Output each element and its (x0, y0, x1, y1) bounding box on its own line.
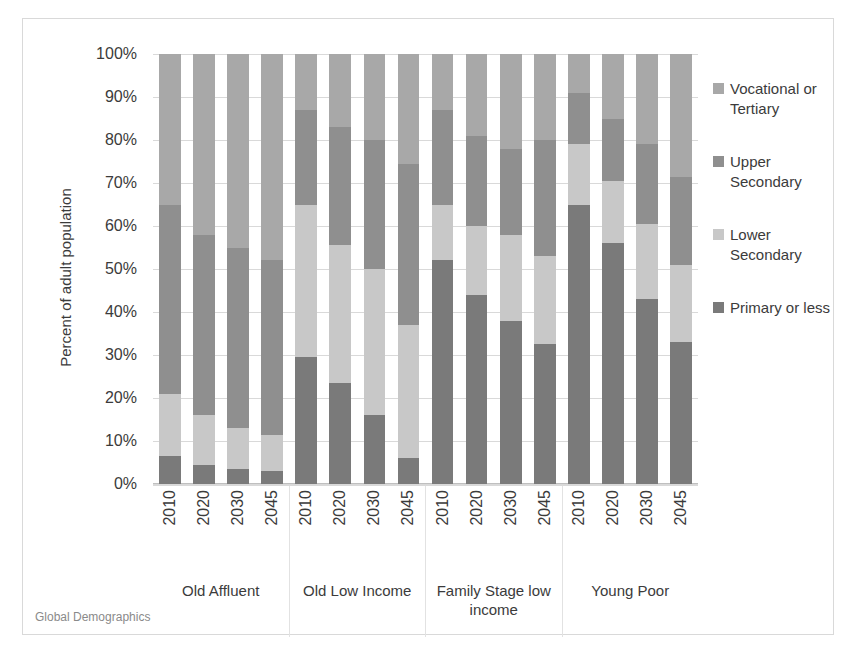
bar-segment[interactable] (500, 235, 522, 321)
bar-segment[interactable] (329, 54, 351, 127)
bar-segment[interactable] (636, 299, 658, 484)
bar-segment[interactable] (295, 357, 317, 484)
bar-segment[interactable] (364, 140, 386, 269)
bar-segment[interactable] (295, 54, 317, 110)
bar-segment[interactable] (568, 54, 590, 93)
bar-segment[interactable] (227, 248, 249, 429)
stacked-bar[interactable] (432, 54, 454, 484)
bar-segment[interactable] (602, 119, 624, 181)
bar-segment[interactable] (159, 54, 181, 205)
bar-segment[interactable] (329, 245, 351, 383)
bar-segment[interactable] (568, 144, 590, 204)
legend-item[interactable]: Vocational or Tertiary (713, 79, 831, 118)
stacked-bar[interactable] (568, 54, 590, 484)
legend-item[interactable]: Upper Secondary (713, 152, 831, 191)
bar-segment[interactable] (227, 54, 249, 248)
bar-segment[interactable] (432, 205, 454, 261)
bar-segment[interactable] (159, 456, 181, 484)
stacked-bar[interactable] (261, 54, 283, 484)
stacked-bar[interactable] (500, 54, 522, 484)
bar-segment[interactable] (670, 54, 692, 177)
bar-segment[interactable] (432, 260, 454, 484)
y-axis-tick: 70% (105, 174, 137, 192)
source-note: Global Demographics (35, 610, 150, 624)
x-axis-tick-year: 2030 (494, 486, 528, 578)
bar-segment[interactable] (602, 54, 624, 119)
bar-segment[interactable] (364, 54, 386, 140)
bar-segment[interactable] (636, 144, 658, 224)
bar-group (153, 54, 289, 484)
bar-segment[interactable] (261, 471, 283, 484)
bar-segment[interactable] (466, 295, 488, 484)
bar-segment[interactable] (261, 54, 283, 260)
bar-segment[interactable] (602, 243, 624, 484)
legend-swatch-icon (713, 83, 724, 94)
bar-segment[interactable] (227, 469, 249, 484)
bar-segment[interactable] (534, 140, 556, 256)
bar-segment[interactable] (670, 177, 692, 265)
bar-segment[interactable] (534, 344, 556, 484)
bar-segment[interactable] (329, 127, 351, 245)
stacked-bar[interactable] (534, 54, 556, 484)
bar-segment[interactable] (398, 54, 420, 164)
bar-segment[interactable] (636, 224, 658, 299)
bar-segment[interactable] (636, 54, 658, 144)
stacked-bar[interactable] (602, 54, 624, 484)
bar-segment[interactable] (534, 256, 556, 344)
bar-segment[interactable] (534, 54, 556, 140)
x-axis-tick-year: 2010 (426, 486, 460, 578)
bar-segment[interactable] (500, 321, 522, 484)
stacked-bar[interactable] (193, 54, 215, 484)
bar-segment[interactable] (500, 54, 522, 149)
y-axis-tick: 80% (105, 131, 137, 149)
bar-group (562, 54, 698, 484)
legend-item[interactable]: Lower Secondary (713, 225, 831, 264)
category-year-labels: 2010202020302045 (290, 486, 426, 578)
bar-segment[interactable] (568, 93, 590, 145)
bar-segment[interactable] (568, 205, 590, 485)
stacked-bar[interactable] (329, 54, 351, 484)
bar-segment[interactable] (261, 260, 283, 434)
stacked-bar[interactable] (295, 54, 317, 484)
bar-segment[interactable] (193, 465, 215, 484)
bar-segment[interactable] (670, 342, 692, 484)
stacked-bar[interactable] (398, 54, 420, 484)
x-axis-tick-year: 2030 (357, 486, 391, 578)
bar-segment[interactable] (295, 205, 317, 358)
stacked-bar[interactable] (159, 54, 181, 484)
x-axis-tick-year: 2045 (255, 486, 289, 578)
bar-segment[interactable] (398, 164, 420, 325)
bar-segment[interactable] (329, 383, 351, 484)
bar-slot (664, 54, 698, 484)
bar-slot (460, 54, 494, 484)
bar-segment[interactable] (227, 428, 249, 469)
bar-segment[interactable] (159, 394, 181, 456)
bar-segment[interactable] (466, 226, 488, 295)
stacked-bar[interactable] (364, 54, 386, 484)
x-axis-tick-year: 2045 (391, 486, 425, 578)
bar-segment[interactable] (466, 54, 488, 136)
bar-segment[interactable] (193, 415, 215, 464)
stacked-bar[interactable] (670, 54, 692, 484)
bar-segment[interactable] (466, 136, 488, 226)
bar-segment[interactable] (159, 205, 181, 394)
bar-segment[interactable] (364, 269, 386, 415)
bar-segment[interactable] (193, 54, 215, 235)
bar-segment[interactable] (432, 110, 454, 205)
stacked-bar[interactable] (227, 54, 249, 484)
bar-segment[interactable] (500, 149, 522, 235)
bar-segment[interactable] (398, 458, 420, 484)
bar-segment[interactable] (432, 54, 454, 110)
stacked-bar[interactable] (466, 54, 488, 484)
bar-segment[interactable] (602, 181, 624, 243)
bar-segment[interactable] (261, 435, 283, 472)
bar-segment[interactable] (295, 110, 317, 205)
bar-segment[interactable] (193, 235, 215, 416)
bar-segment[interactable] (670, 265, 692, 342)
stacked-bar[interactable] (636, 54, 658, 484)
y-axis-tick: 100% (96, 45, 137, 63)
bar-segment[interactable] (398, 325, 420, 458)
legend-item[interactable]: Primary or less (713, 298, 831, 318)
x-axis-tick-year: 2020 (323, 486, 357, 578)
bar-segment[interactable] (364, 415, 386, 484)
